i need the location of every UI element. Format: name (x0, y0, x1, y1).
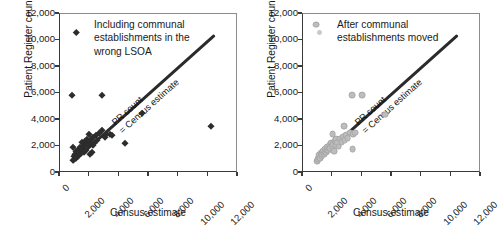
y-tick-right-5 (298, 39, 302, 40)
data-point (69, 92, 75, 98)
y-tick-label-left-0: 0 (50, 166, 55, 177)
data-point (349, 91, 356, 98)
y-tick-left-4 (55, 65, 59, 66)
y-tick-label-right-4: 8,000 (274, 60, 298, 71)
y-tick-label-left-6: 12,000 (26, 7, 55, 18)
y-tick-label-right-3: 6,000 (274, 86, 298, 97)
y-tick-right-2 (298, 118, 302, 119)
x-tick-right-4 (420, 172, 421, 176)
legend-caption-line-left-0: Including communal (94, 18, 190, 31)
y-tick-left-5 (55, 39, 59, 40)
x-tick-right-0 (301, 172, 302, 176)
y-tick-label-left-3: 6,000 (31, 86, 55, 97)
y-tick-left-3 (55, 92, 59, 93)
data-point (98, 92, 104, 98)
y-tick-label-left-1: 2,000 (31, 139, 55, 150)
y-tick-label-right-0: 0 (293, 166, 298, 177)
x-tick-left-2 (118, 172, 119, 176)
x-tick-right-2 (361, 172, 362, 176)
x-tick-right-6 (479, 172, 480, 176)
x-tick-right-5 (450, 172, 451, 176)
y-tick-label-right-6: 12,000 (269, 7, 298, 18)
panel-right-after: Patient Register count Census estimate P… (243, 0, 485, 230)
x-tick-left-1 (88, 172, 89, 176)
y-tick-label-right-2: 4,000 (274, 113, 298, 124)
legend-marker-swatch-left (73, 29, 79, 35)
legend-caption-line-left-1: establishments in the (94, 31, 190, 44)
y-tick-right-4 (298, 65, 302, 66)
legend-left: Including communalestablishments in thew… (74, 18, 190, 58)
x-tick-label-right-0: 0 (303, 182, 315, 194)
y-tick-left-1 (55, 145, 59, 146)
x-tick-left-6 (236, 172, 237, 176)
data-point (352, 129, 359, 136)
y-tick-right-3 (298, 92, 302, 93)
legend-caption-line-right-0: After communal (337, 18, 438, 31)
plot-area-right: PR count= Census estimateAfter communale… (302, 13, 480, 172)
data-point (382, 111, 389, 118)
data-point (349, 146, 356, 153)
x-tick-left-3 (147, 172, 148, 176)
legend-caption-line-left-2: wrong LSOA (94, 45, 190, 58)
legend-caption-line-right-1: establishments moved (337, 31, 438, 44)
panel-left-before: Patient Register count Census estimate P… (0, 0, 242, 230)
y-tick-right-1 (298, 145, 302, 146)
reference-line-annotation-left: PR count= Census estimate (110, 69, 181, 136)
y-tick-label-right-1: 2,000 (274, 139, 298, 150)
data-point (109, 131, 115, 137)
legend-marker-swatch-right (317, 30, 322, 35)
data-point (340, 123, 347, 130)
y-tick-label-right-5: 10,000 (269, 33, 298, 44)
legend-right: After communalestablishments moved (317, 18, 438, 45)
data-point (208, 123, 214, 129)
y-tick-left-2 (55, 118, 59, 119)
y-tick-right-6 (298, 12, 302, 13)
x-tick-left-0 (58, 172, 59, 176)
x-tick-left-5 (207, 172, 208, 176)
x-tick-right-1 (331, 172, 332, 176)
reference-line-annotation-right: PR count= Census estimate (353, 69, 424, 136)
x-tick-label-left-0: 0 (60, 182, 72, 194)
data-point (359, 91, 366, 98)
data-point (122, 139, 128, 145)
y-tick-label-left-5: 10,000 (26, 33, 55, 44)
x-tick-left-4 (177, 172, 178, 176)
y-tick-label-left-4: 8,000 (31, 60, 55, 71)
x-tick-right-3 (390, 172, 391, 176)
y-tick-left-6 (55, 12, 59, 13)
plot-area-left: PR count= Census estimateIncluding commu… (59, 13, 237, 172)
y-tick-label-left-2: 4,000 (31, 113, 55, 124)
